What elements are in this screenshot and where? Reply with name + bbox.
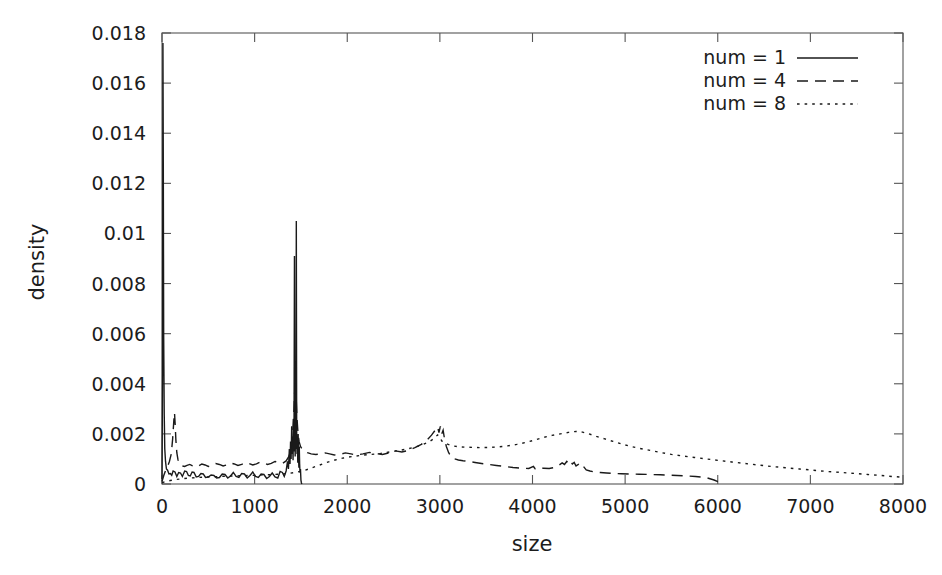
x-tick-label: 8000 <box>879 495 927 517</box>
y-tick-label: 0 <box>134 473 146 495</box>
series-line-num-4 <box>162 380 722 484</box>
x-tick-label: 1000 <box>230 495 278 517</box>
chart-canvas: 00.0020.0040.0060.0080.010.0120.0140.016… <box>0 0 942 575</box>
legend-label-2: num = 4 <box>703 69 786 91</box>
plot-frame <box>162 33 903 484</box>
x-axis-label: size <box>512 532 553 556</box>
y-tick-label: 0.01 <box>104 222 146 244</box>
y-tick-label: 0.014 <box>92 122 146 144</box>
data-series-group <box>162 43 903 484</box>
x-tick-label: 6000 <box>694 495 742 517</box>
x-tick-label: 0 <box>156 495 168 517</box>
y-tick-label: 0.016 <box>92 72 146 94</box>
x-tick-label: 2000 <box>323 495 371 517</box>
legend-label-3: num = 8 <box>703 92 786 114</box>
x-tick-label: 7000 <box>786 495 834 517</box>
y-tick-label: 0.006 <box>92 323 146 345</box>
y-tick-label: 0.002 <box>92 423 146 445</box>
y-tick-label: 0.008 <box>92 273 146 295</box>
density-plot-figure: 00.0020.0040.0060.0080.010.0120.0140.016… <box>0 0 942 575</box>
y-tick-label: 0.018 <box>92 22 146 44</box>
x-tick-label: 5000 <box>601 495 649 517</box>
y-tick-label: 0.004 <box>92 373 146 395</box>
x-tick-label: 4000 <box>508 495 556 517</box>
legend-label-1: num = 1 <box>703 46 786 68</box>
y-axis-tick-labels: 00.0020.0040.0060.0080.010.0120.0140.016… <box>92 22 146 495</box>
chart-legend: num = 1num = 4num = 8 <box>703 46 858 114</box>
y-axis-label: density <box>25 224 49 301</box>
series-line-num-1 <box>162 43 302 484</box>
y-tick-label: 0.012 <box>92 172 146 194</box>
x-axis-tick-labels: 010002000300040005000600070008000 <box>156 495 927 517</box>
y-axis-ticks <box>162 33 903 484</box>
x-tick-label: 3000 <box>416 495 464 517</box>
x-axis-ticks <box>162 33 903 484</box>
